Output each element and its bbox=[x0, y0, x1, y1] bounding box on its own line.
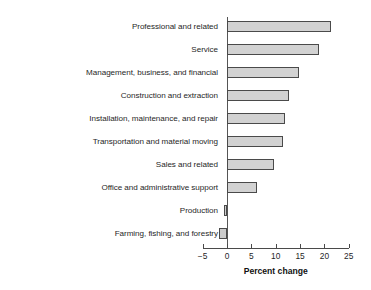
bar bbox=[227, 44, 319, 55]
bar bbox=[227, 182, 257, 193]
x-tick bbox=[300, 244, 301, 248]
x-tick bbox=[251, 244, 252, 248]
x-axis-title: Percent change bbox=[244, 266, 308, 276]
x-tick bbox=[324, 244, 325, 248]
bar bbox=[224, 205, 227, 216]
x-tick bbox=[203, 244, 204, 248]
x-tick-label: 15 bbox=[295, 251, 304, 261]
x-tick-label: 5 bbox=[249, 251, 254, 261]
x-tick-label: 0 bbox=[225, 251, 230, 261]
x-tick-label: 20 bbox=[320, 251, 329, 261]
x-tick-label: 10 bbox=[271, 251, 280, 261]
x-tick-label: −5 bbox=[198, 251, 208, 261]
bar-chart: Professional and related Service Managem… bbox=[0, 0, 371, 290]
x-tick bbox=[276, 244, 277, 248]
bar bbox=[227, 159, 274, 170]
bar bbox=[227, 113, 285, 124]
bar bbox=[227, 67, 299, 78]
bar bbox=[227, 90, 289, 101]
plot-area: −50510152025 Percent change bbox=[0, 0, 371, 290]
x-tick-label: 25 bbox=[344, 251, 353, 261]
bar bbox=[227, 136, 283, 147]
x-tick bbox=[227, 244, 228, 248]
bar bbox=[227, 21, 331, 32]
bar bbox=[219, 228, 227, 239]
x-axis-line bbox=[203, 248, 349, 249]
x-tick bbox=[349, 244, 350, 248]
